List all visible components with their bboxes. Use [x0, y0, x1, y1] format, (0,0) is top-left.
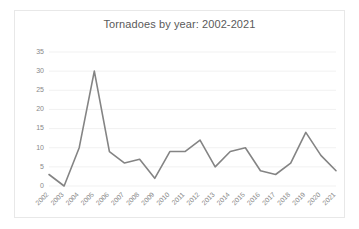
x-axis-tick-label: 2018 — [276, 191, 292, 207]
y-axis-tick-label: 25 — [36, 86, 44, 93]
y-axis-tick-label: 0 — [40, 182, 44, 189]
x-axis-tick-label: 2011 — [170, 191, 185, 206]
y-axis-tick-label: 10 — [36, 144, 44, 151]
x-axis-tick-label: 2003 — [49, 191, 65, 207]
y-axis-tick-label: 30 — [36, 67, 44, 74]
x-axis-tick-label: 2004 — [64, 191, 80, 207]
y-axis-tick-label: 15 — [36, 124, 44, 131]
x-axis-tick-label: 2021 — [321, 191, 337, 207]
x-axis-tick-label: 2002 — [34, 191, 50, 207]
x-axis-tick-label: 2010 — [155, 191, 171, 207]
y-axis-tick-label: 5 — [40, 163, 44, 170]
line-chart-plot: 05101520253035 2002200320042005200620072… — [15, 11, 346, 219]
y-axis-tick-label: 20 — [36, 105, 44, 112]
x-axis-tick-label: 2014 — [215, 191, 231, 207]
x-axis-tick-label: 2012 — [185, 191, 201, 207]
x-axis-tick-label: 2015 — [230, 191, 246, 207]
x-axis-tick-label: 2020 — [306, 191, 322, 207]
y-axis-tick-labels: 05101520253035 — [36, 48, 44, 189]
x-axis-tick-label: 2008 — [125, 191, 141, 207]
x-axis-tick-label: 2013 — [200, 191, 216, 207]
x-axis-tick-labels: 2002200320042005200620072008200920102011… — [34, 191, 337, 207]
y-axis-tick-label: 35 — [36, 48, 44, 55]
x-axis-tick-label: 2019 — [291, 191, 307, 207]
x-axis-tick-label: 2009 — [140, 191, 156, 207]
x-axis-tick-label: 2006 — [94, 191, 110, 207]
x-axis-tick-label: 2017 — [261, 191, 277, 207]
x-axis-tick-label: 2005 — [79, 191, 95, 207]
x-axis-tick-label: 2007 — [110, 191, 126, 207]
chart-card: Tornadoes by year: 2002-2021 05101520253… — [14, 10, 345, 218]
gridlines-group — [49, 52, 336, 186]
x-axis-tick-label: 2016 — [246, 191, 262, 207]
